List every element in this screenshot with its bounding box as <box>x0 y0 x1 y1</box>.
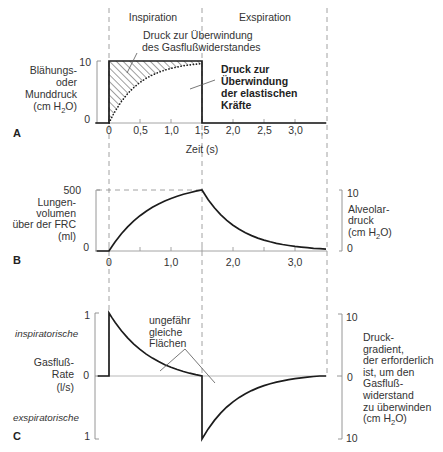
panel-c-ylabel-line-2: Rate <box>52 368 74 380</box>
panel-c-right-y-axis-bracket <box>337 314 342 439</box>
panel-a-ylabel-line-3: Munddruck <box>25 88 78 100</box>
panel-a-xtick-label: 2,0 <box>226 124 241 136</box>
panel-c-right-ylabel-line-1: Druck- <box>363 331 394 343</box>
panel-a-resistance-hatch-area <box>109 61 202 123</box>
panel-c-right-ylabel-line-6: widerstand <box>362 389 414 401</box>
panel-c-right-ylabel-line-3: der erforderlich <box>363 354 434 366</box>
panel-a-letter: A <box>13 127 21 139</box>
panel-b-x-ticks <box>109 247 295 251</box>
panel-c-ytick-top: 1 <box>84 309 90 321</box>
panel-b-xtick-label: 0 <box>106 256 112 268</box>
panel-b-y-axis-bracket <box>96 190 100 251</box>
panel-c-right-ytick-top: 10 <box>346 311 358 323</box>
panel-b-ylabel-line-4: (ml) <box>58 230 76 242</box>
panel-b-ytick-bottom: 0 <box>83 241 89 253</box>
annotation-areas-line-3: Flächen <box>149 337 187 349</box>
panel-c-right-ylabel-line-2: gradient, <box>363 343 404 355</box>
panel-c-region-expiratory: exspiratorische <box>13 412 79 423</box>
panel-c-ytick-bottom: 1 <box>84 430 90 442</box>
panel-b-right-ytick-top: 10 <box>347 187 359 199</box>
panel-b-lung-volume-curve <box>97 190 326 251</box>
panel-a-ytick-top: 10 <box>79 56 91 68</box>
annotation-areas-line-1: ungefähr <box>149 314 191 326</box>
panel-b-right-ylabel-line-2: druck <box>348 214 374 226</box>
annotation-elastic-line-2: Überwindung <box>221 75 288 87</box>
annotation-resistance-line-2: des Gasflußwiderstandes <box>142 41 260 53</box>
panel-b-right-ylabel-unit: (cm H2O) <box>348 226 392 241</box>
panel-a-xtick-label: 1,5 <box>195 124 210 136</box>
annotation-elastic-line-1: Druck zur <box>221 63 269 75</box>
annotation-elastic-line-4: Kräfte <box>221 99 252 111</box>
annotation-elastic-line-3: der elastischen <box>221 87 297 99</box>
phase-label-expiration: Exspiration <box>239 11 291 23</box>
panel-c-right-ylabel-line-4: ist, um den <box>363 366 415 378</box>
panel-a-xtick-label: 1,0 <box>164 124 179 136</box>
panel-a-xtick-label: 2,5 <box>257 124 272 136</box>
panel-c-right-ylabel-unit: (cm H2O) <box>363 412 407 427</box>
annotation-resistance-line-1: Druck zur Überwindung <box>143 29 253 41</box>
panel-a-ylabel-unit: (cm H2O) <box>33 100 77 115</box>
panel-c-right-ylabel-line-7: zu überwinden <box>363 401 431 413</box>
panel-a-xtick-label: 3,0 <box>288 124 303 136</box>
panel-c-ylabel-line-3: (l/s) <box>57 381 75 393</box>
panel-a: 10 0 Blähungs- oder Munddruck (cm H2O) A… <box>13 29 327 155</box>
panel-b-right-ytick-bottom: 0 <box>347 242 353 254</box>
panel-b-xtick-label: 1,0 <box>164 256 179 268</box>
panel-a-ylabel-line-2: oder <box>56 76 78 88</box>
panel-b-letter: B <box>13 254 21 266</box>
panel-c-region-inspiratory: inspiratorische <box>15 328 79 339</box>
panel-a-ytick-bottom: 0 <box>84 113 90 125</box>
panel-c-right-ytick-zero: 0 <box>347 371 353 383</box>
panel-a-y-axis-bracket <box>97 61 101 123</box>
panel-a-xtick-label: 0,5 <box>133 124 148 136</box>
annotation-areas-line-2: gleiche <box>149 326 182 338</box>
panel-c: 1 0 1 inspiratorische Gasfluß- Rate (l/s… <box>13 309 434 444</box>
panel-b-ylabel-line-3: über der FRC <box>12 218 76 230</box>
panel-a-xlabel: Zeit (s) <box>186 143 219 155</box>
panel-c-right-ytick-bottom: 10 <box>346 432 358 444</box>
panel-c-ylabel-line-1: Gasfluß- <box>34 356 75 368</box>
panel-b-xtick-label: 2,0 <box>226 256 241 268</box>
panel-b-ytick-top: 500 <box>63 184 81 196</box>
panel-b-xtick-label: 3,0 <box>288 256 303 268</box>
phase-label-inspiration: Inspiration <box>129 11 178 23</box>
panel-a-ylabel-line-1: Blähungs- <box>30 64 78 76</box>
respiratory-mechanics-figure: Inspiration Exspiration 10 0 Blähungs- o… <box>0 0 443 452</box>
panel-c-right-ylabel-line-5: Gasfluß- <box>363 377 404 389</box>
panel-c-letter: C <box>13 430 21 442</box>
panel-a-xtick-label: 0 <box>106 124 112 136</box>
panel-b-right-y-axis-bracket <box>339 190 342 251</box>
panel-c-ytick-zero: 0 <box>83 369 89 381</box>
